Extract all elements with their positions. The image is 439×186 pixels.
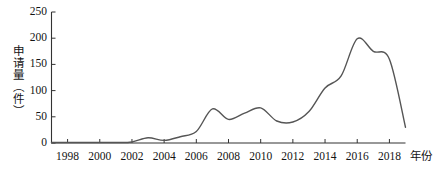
chart-container: 申请量（件） 050100150200250 19982000200220042… — [0, 0, 439, 186]
plot-area — [0, 0, 439, 186]
data-series-line — [52, 38, 406, 143]
axis-lines — [52, 12, 406, 143]
axis-ticks — [52, 12, 390, 143]
